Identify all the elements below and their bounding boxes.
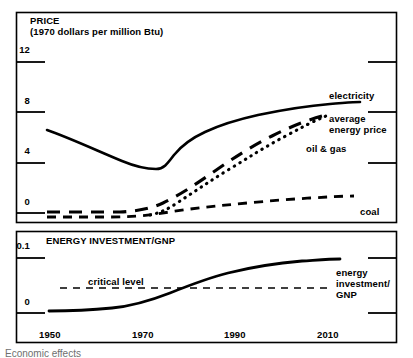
series-label-electricity: electricity [329, 91, 374, 101]
series-label-oil-and-gas: oil & gas [306, 144, 347, 154]
price-ytick-12: 12 [4, 45, 30, 55]
series-label-average: average [329, 114, 366, 124]
xtick-1950: 1950 [39, 330, 61, 340]
xtick-1970: 1970 [132, 330, 154, 340]
series-electricity [47, 102, 360, 169]
price-panel-title: PRICE [30, 16, 60, 26]
figure-root: PRICE (1970 dollars per million Btu) 12 … [0, 0, 413, 358]
investment-ytick-0: 0 [4, 297, 30, 307]
series-label-gnp: GNP [336, 290, 357, 300]
chart-canvas [0, 0, 413, 358]
series-label-energy: energy [336, 268, 368, 278]
bottom-caption: Economic effects [5, 348, 255, 358]
price-panel-subtitle: (1970 dollars per million Btu) [30, 27, 163, 37]
xtick-1990: 1990 [224, 330, 246, 340]
series-oil-and-gas [150, 116, 326, 215]
series-label-coal: coal [360, 207, 379, 217]
price-ytick-4: 4 [4, 146, 30, 156]
price-ytick-8: 8 [4, 96, 30, 106]
series-coal [47, 196, 354, 217]
series-label-critical-level: critical level [88, 277, 144, 287]
investment-panel-title: ENERGY INVESTMENT/GNP [46, 236, 175, 246]
investment-ytick-0-1: 0.1 [0, 241, 30, 251]
series-label-energy-price: energy price [329, 125, 387, 135]
price-ytick-0: 0 [4, 197, 30, 207]
series-label-investment: investment/ [336, 279, 390, 289]
price-y-ticks-right [368, 62, 397, 163]
price-y-ticks-left [16, 62, 45, 213]
xtick-2010: 2010 [317, 330, 339, 340]
